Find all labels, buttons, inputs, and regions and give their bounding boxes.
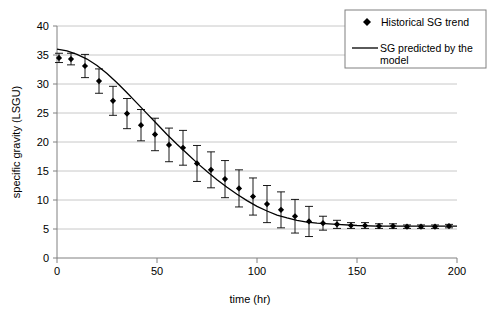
y-tick-label: 30 (37, 78, 49, 90)
x-tick-label: 200 (448, 265, 466, 277)
x-tick-label: 100 (248, 265, 266, 277)
legend-item-historical-label: Historical SG trend (381, 16, 469, 28)
y-tick-label: 25 (37, 107, 49, 119)
x-tick-label: 150 (348, 265, 366, 277)
legend-item-model-label-line1: SG predicted by the (380, 42, 473, 54)
legend-item-model-label-line2: model (380, 54, 409, 66)
chart-container: 0510152025303540 050100150200 specific g… (0, 0, 492, 325)
y-axis-title: specific gravity (LSGU) (10, 86, 22, 198)
y-tick-label: 5 (43, 223, 49, 235)
x-tick-label: 0 (54, 265, 60, 277)
y-tick-label: 0 (43, 252, 49, 264)
x-axis-title: time (hr) (230, 293, 271, 305)
chart-legend: Historical SG trend SG predicted by the … (345, 10, 486, 68)
y-tick-label: 20 (37, 136, 49, 148)
specific-gravity-chart: 0510152025303540 050100150200 specific g… (0, 0, 492, 325)
y-tick-label: 40 (37, 20, 49, 32)
y-tick-label: 35 (37, 49, 49, 61)
x-tick-label: 50 (151, 265, 163, 277)
y-tick-label: 15 (37, 165, 49, 177)
y-tick-label: 10 (37, 194, 49, 206)
